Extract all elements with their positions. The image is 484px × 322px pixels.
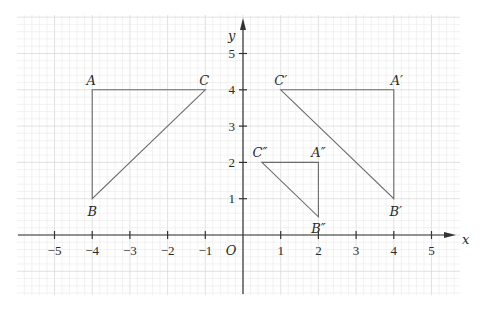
x-tick-label: −2 [161,243,175,258]
x-tick-label: −4 [85,243,99,258]
vertex-label: C″ [252,145,267,160]
x-axis-label: x [462,232,470,247]
labels: −5−4−3−2−11234512345xyOABCA′B′C′A″B″C″ [48,28,470,258]
x-tick-label: 3 [353,243,360,258]
y-tick-label: 5 [229,46,236,61]
vertex-label: A″ [310,145,325,160]
x-tick-label: −1 [198,243,212,258]
y-tick-label: 2 [229,155,236,170]
origin-label: O [226,243,237,258]
triangle-abc [92,90,205,199]
vertex-label: C′ [274,73,287,88]
y-axis-arrow-icon [240,18,246,30]
y-tick-label: 1 [229,191,236,206]
x-tick-label: 4 [391,243,398,258]
x-tick-label: 2 [315,243,322,258]
x-tick-label: 5 [428,243,435,258]
vertex-label: A′ [390,73,403,88]
y-axis-label: y [227,28,236,43]
x-tick-label: −3 [123,243,137,258]
coordinate-diagram: −5−4−3−2−11234512345xyOABCA′B′C′A″B″C″ [0,0,484,322]
x-tick-label: 1 [277,243,284,258]
vertex-label: B″ [310,221,326,236]
vertex-label: A [86,73,96,88]
triangle-appbppcpp [262,162,319,216]
vertex-label: C [199,73,209,88]
y-tick-label: 3 [229,119,236,134]
x-tick-label: −5 [48,243,62,258]
y-tick-label: 4 [229,82,236,97]
vertex-label: B′ [389,204,403,219]
coordinate-plane: −5−4−3−2−11234512345xyOABCA′B′C′A″B″C″ [0,0,484,322]
vertex-label: B [86,204,97,219]
triangle-apbpcp [281,90,394,199]
